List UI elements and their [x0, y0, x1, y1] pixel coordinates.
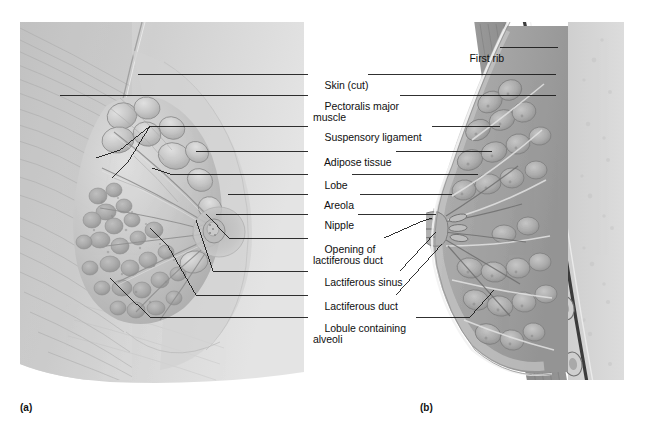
- panel-caption-b: (b): [420, 402, 433, 413]
- figure-canvas: Skin (cut) Pectoralis majormuscle Suspen…: [0, 0, 649, 434]
- leader-lactiferous-duct-right: [396, 244, 442, 295]
- leader-opening-duct-right: [384, 218, 432, 238]
- leader-lobule-right-diag: [470, 290, 494, 317]
- leader-lactiferous-sinus-diag: [196, 220, 213, 271]
- leader-lactiferous-duct-diag: [150, 228, 196, 295]
- leader-suspensory-fork-a: [96, 126, 150, 158]
- leader-lobule-diag: [110, 278, 150, 317]
- leader-lactiferous-sinus-right: [400, 232, 436, 271]
- leader-lobe-diag: [152, 168, 170, 174]
- leader-suspensory-fork-b: [112, 126, 150, 178]
- leader-opening-duct-diag: [206, 214, 229, 238]
- label-first-rib: First rib: [458, 41, 504, 76]
- label-lobule-containing-alveoli: Lobule containingalveoli: [313, 311, 406, 357]
- panel-caption-a: (a): [20, 402, 32, 413]
